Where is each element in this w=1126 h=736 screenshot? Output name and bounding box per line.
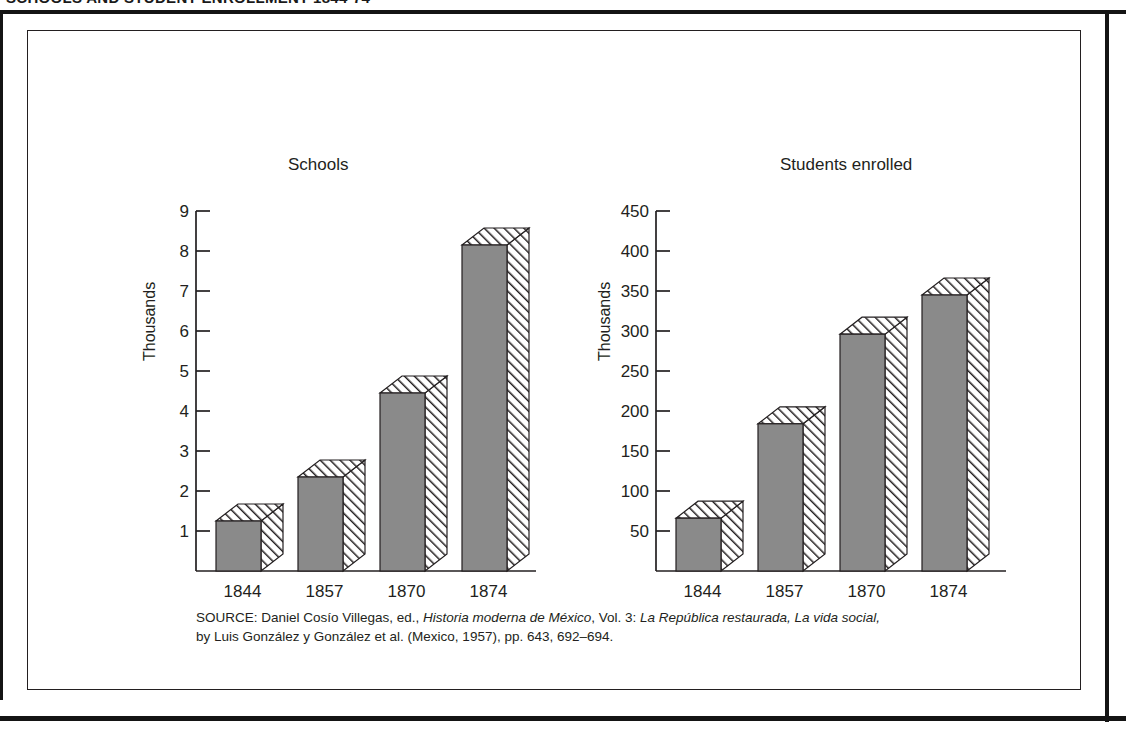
svg-text:100: 100 <box>621 482 649 501</box>
source-note: SOURCE: Daniel Cosío Villegas, ed., Hist… <box>196 608 1076 646</box>
source-italic-subtitle: La República restaurada, La vida social, <box>640 610 880 625</box>
frame-rule-left <box>0 10 3 700</box>
svg-text:8: 8 <box>180 242 189 261</box>
source-line-2: by Luis González y González et al. (Mexi… <box>196 627 1076 646</box>
svg-text:1844: 1844 <box>684 582 722 601</box>
source-line-1: SOURCE: Daniel Cosío Villegas, ed., Hist… <box>196 608 1076 627</box>
svg-text:2: 2 <box>180 482 189 501</box>
svg-text:150: 150 <box>621 442 649 461</box>
svg-text:1857: 1857 <box>306 582 344 601</box>
svg-text:250: 250 <box>621 362 649 381</box>
chart-svg-students: 5010015020025030035040045018441857187018… <box>558 31 1028 691</box>
source-text-a: Daniel Cosío Villegas, ed., <box>258 610 424 625</box>
svg-text:1857: 1857 <box>766 582 804 601</box>
svg-text:450: 450 <box>621 202 649 221</box>
figure-border-box: Schools Thousands 1234567891844185718701… <box>27 30 1081 690</box>
svg-text:200: 200 <box>621 402 649 421</box>
svg-text:7: 7 <box>180 282 189 301</box>
page-headline: SCHOOLS AND STUDENT ENROLLMENT 1844-74 <box>6 0 706 5</box>
svg-text:1870: 1870 <box>388 582 426 601</box>
svg-text:4: 4 <box>180 402 189 421</box>
figure-page: SCHOOLS AND STUDENT ENROLLMENT 1844-74 S… <box>0 0 1126 736</box>
svg-text:1844: 1844 <box>224 582 262 601</box>
svg-text:300: 300 <box>621 322 649 341</box>
frame-rule-bottom <box>0 716 1126 721</box>
chart-panel-schools: Schools Thousands 1234567891844185718701… <box>88 31 558 691</box>
frame-rule-top <box>0 10 1126 14</box>
svg-text:5: 5 <box>180 362 189 381</box>
source-text-b: , Vol. 3: <box>591 610 640 625</box>
svg-text:400: 400 <box>621 242 649 261</box>
source-prefix: SOURCE: <box>196 610 258 625</box>
chart-svg-schools: 1234567891844185718701874 <box>88 31 558 691</box>
svg-text:350: 350 <box>621 282 649 301</box>
svg-text:9: 9 <box>180 202 189 221</box>
chart-panel-students: Students enrolled Thousands 501001502002… <box>558 31 1038 691</box>
frame-rule-right <box>1105 10 1109 722</box>
svg-text:1874: 1874 <box>930 582 968 601</box>
svg-text:6: 6 <box>180 322 189 341</box>
svg-text:50: 50 <box>630 522 649 541</box>
svg-text:3: 3 <box>180 442 189 461</box>
svg-text:1: 1 <box>180 522 189 541</box>
svg-text:1870: 1870 <box>848 582 886 601</box>
svg-text:1874: 1874 <box>470 582 508 601</box>
source-italic-title: Historia moderna de México <box>423 610 591 625</box>
